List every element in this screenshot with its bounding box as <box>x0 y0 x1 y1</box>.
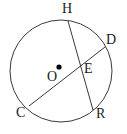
point-label-o: O <box>47 70 57 84</box>
center-point-marker-icon <box>56 64 61 69</box>
point-label-d: D <box>106 33 116 47</box>
circle-geometry-figure: H D E O R C <box>0 0 127 134</box>
chord-cd-line <box>29 47 105 106</box>
point-label-r: R <box>96 107 105 121</box>
point-label-c: C <box>16 106 25 120</box>
point-label-h: H <box>62 2 72 16</box>
point-label-e: E <box>84 62 93 76</box>
